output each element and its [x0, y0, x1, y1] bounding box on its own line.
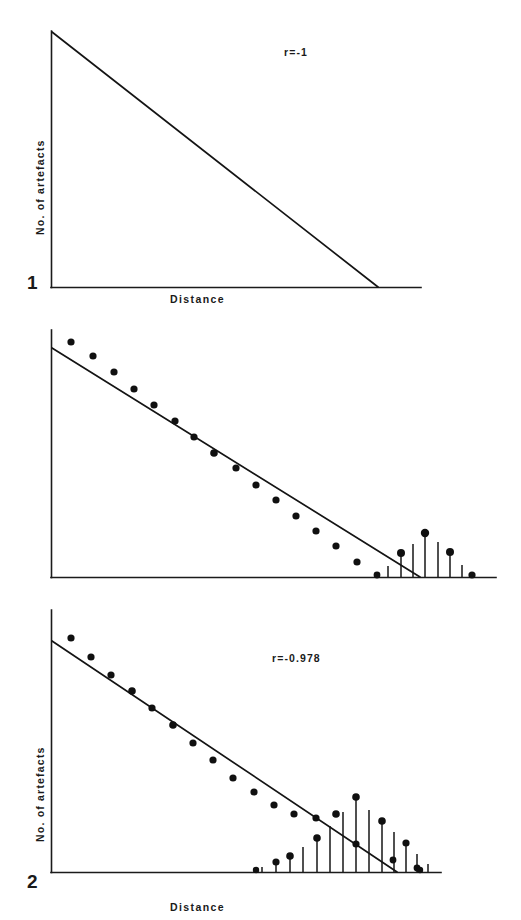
panel-1: r=-1 No. of artefacts Distance 1 — [0, 0, 521, 310]
panel-1-number: 1 — [27, 272, 38, 294]
panel-2-plot — [0, 310, 521, 610]
panel-1-y-axis-label: No. of artefacts — [34, 139, 46, 235]
panel-1-plot — [0, 0, 521, 310]
panel-2-fit-line — [52, 348, 420, 577]
panel-1-r-label: r=-1 — [284, 46, 308, 58]
panel-3: r=-0.989 No. of artefacts Distance 3 — [0, 600, 521, 920]
panel-3-fit-line — [52, 641, 397, 872]
figure-container: r=-1 No. of artefacts Distance 1 — [0, 0, 521, 920]
panel-3-plot — [0, 600, 521, 920]
panel-1-fit-line — [52, 32, 378, 287]
panel-1-x-axis-label: Distance — [170, 293, 225, 305]
panel-3-stems — [262, 797, 428, 872]
panel-3-data-points — [67, 634, 423, 873]
panel-2: r=-0.978 No. of artefacts Distance 2 — [0, 310, 521, 610]
panel-2-data-points — [67, 338, 475, 578]
